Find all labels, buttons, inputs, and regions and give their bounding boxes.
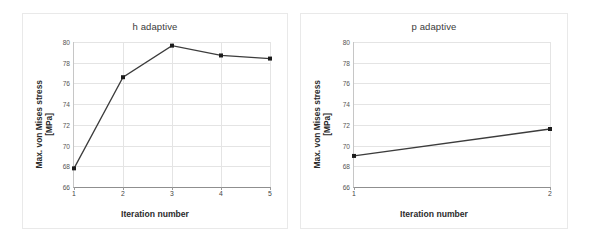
y-tick-label: 76 (63, 80, 70, 87)
x-tick-label: 4 (219, 190, 223, 197)
data-point-marker (121, 75, 125, 79)
plot-area-p-adaptive: 666870727476788012 (353, 42, 550, 188)
x-tick-label: 2 (121, 190, 125, 197)
y-tick-label: 66 (343, 184, 350, 191)
y-tick-label: 66 (63, 184, 70, 191)
data-point-marker (548, 127, 552, 131)
x-tick-label: 1 (72, 190, 76, 197)
x-axis-title-p-adaptive: Iteration number (301, 209, 567, 219)
x-tick-label: 5 (268, 190, 272, 197)
y-tick-label: 80 (63, 39, 70, 46)
x-axis-title-h-adaptive: Iteration number (23, 209, 287, 219)
data-point-marker (352, 154, 356, 158)
y-axis-title-p-adaptive: Max. von Mises stress [MPa] (307, 44, 337, 204)
y-tick-label: 68 (63, 163, 70, 170)
y-tick-label: 74 (343, 101, 350, 108)
series-line (74, 46, 270, 169)
data-series (354, 42, 550, 187)
y-tick-label: 78 (63, 59, 70, 66)
x-tick-label: 2 (548, 190, 552, 197)
data-point-marker (72, 166, 76, 170)
y-axis-title-line2: [MPa] (45, 113, 53, 136)
data-series (74, 42, 270, 187)
y-axis-title-line1: Max. von Mises stress (313, 80, 321, 168)
chart-panel-p-adaptive: p adaptive Max. von Mises stress [MPa] 6… (300, 13, 568, 229)
y-tick-label: 68 (343, 163, 350, 170)
y-axis-title-line2: [MPa] (323, 113, 331, 136)
y-tick-label: 72 (343, 121, 350, 128)
plot-area-h-adaptive: 666870727476788012345 (73, 42, 270, 188)
y-tick-label: 72 (63, 121, 70, 128)
data-point-marker (170, 44, 174, 48)
chart-title-h-adaptive: h adaptive (23, 21, 287, 32)
series-line (354, 129, 550, 156)
y-tick-label: 76 (343, 80, 350, 87)
y-tick-label: 78 (343, 59, 350, 66)
y-axis-title-line1: Max. von Mises stress (35, 80, 43, 168)
x-gridline (550, 42, 551, 187)
x-gridline (270, 42, 271, 187)
y-axis-title-h-adaptive: Max. von Mises stress [MPa] (29, 44, 59, 204)
y-tick-label: 74 (63, 101, 70, 108)
y-tick-label: 70 (63, 142, 70, 149)
chart-title-p-adaptive: p adaptive (301, 21, 567, 32)
data-point-marker (219, 53, 223, 57)
figure-container: h adaptive Max. von Mises stress [MPa] 6… (0, 0, 592, 242)
chart-panel-h-adaptive: h adaptive Max. von Mises stress [MPa] 6… (22, 13, 288, 229)
x-tick-label: 1 (352, 190, 356, 197)
x-tick-label: 3 (170, 190, 174, 197)
y-tick-label: 80 (343, 39, 350, 46)
data-point-marker (268, 57, 272, 61)
y-tick-label: 70 (343, 142, 350, 149)
